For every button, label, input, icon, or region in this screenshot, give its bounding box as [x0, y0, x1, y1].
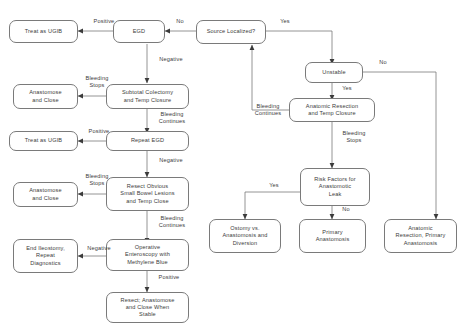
flowchart-canvas: Treat as UGIB EGD Source Localized? Unst…: [0, 0, 461, 330]
node-risk-factors-anastomotic-leak[interactable]: Risk Factors for Anastomotic Leak: [300, 168, 370, 206]
flowchart-connectors: [0, 0, 461, 330]
edge-label-yes-3: Yes: [262, 182, 286, 189]
edge-label-no-2: No: [372, 59, 394, 66]
edge-label-negative-2: Negative: [150, 157, 192, 164]
edge-label-bleeding-stops-3: Bleeding Stops: [79, 173, 115, 187]
edge-label-yes-2: Yes: [335, 85, 359, 92]
node-anatomic-resection-primary-anastomosis[interactable]: Anatomic Resection, Primary Anastomosis: [384, 219, 457, 253]
edge-label-negative-1: Negative: [150, 56, 192, 63]
node-operative-enteroscopy[interactable]: Operative Enteroscopy with Methylene Blu…: [106, 239, 189, 271]
node-resect-obvious-small-bowel[interactable]: Resect Obvious Small Bowel Lesions and T…: [106, 177, 189, 211]
edge-label-bleeding-continues-3: Bleeding Continues: [150, 215, 194, 229]
edge-label-no-3: No: [335, 206, 357, 213]
node-end-ileostomy-repeat-diagnostics[interactable]: End Ileostomy, Repeat Diagnostics: [13, 239, 78, 273]
edge-label-negative-3: Negative: [80, 245, 118, 252]
edge-label-yes-1: Yes: [272, 18, 298, 25]
node-repeat-egd[interactable]: Repeat EGD: [106, 131, 189, 151]
node-anatomic-resection-temp-closure[interactable]: Anatomic Resection and Temp Closure: [289, 98, 375, 122]
edge-label-bleeding-continues-2: Bleeding Continues: [246, 103, 290, 117]
node-unstable[interactable]: Unstable: [305, 62, 363, 83]
edge-label-bleeding-continues-1: Bleeding Continues: [150, 111, 194, 125]
node-treat-as-ugib-2[interactable]: Treat as UGIB: [9, 131, 78, 151]
edge-label-positive-2: Positive: [80, 128, 118, 135]
node-source-localized[interactable]: Source Localized?: [196, 20, 266, 44]
node-anastomose-and-close-2[interactable]: Anastomose and Close: [13, 182, 78, 207]
edge-label-bleeding-stops-1: Bleeding Stops: [79, 75, 115, 89]
edge-label-positive-1: Positive: [84, 18, 124, 25]
edge-label-no-1: No: [168, 18, 192, 25]
edge-anatomic-to-source: [252, 45, 289, 110]
edge-label-positive-3: Positive: [150, 274, 188, 281]
edge-risk-to-ostomy: [245, 192, 300, 219]
node-ostomy-vs-anastomosis-diversion[interactable]: Ostomy vs. Anastomosis and Diversion: [209, 219, 281, 253]
node-primary-anastomosis[interactable]: Primary Anastomosis: [299, 219, 366, 253]
node-anastomose-and-close-1[interactable]: Anastomose and Close: [13, 84, 78, 109]
node-treat-as-ugib-1[interactable]: Treat as UGIB: [9, 20, 78, 43]
edge-label-bleeding-stops-2: Bleeding Stops: [335, 130, 373, 144]
edge-source-to-unstable: [266, 31, 332, 64]
node-subtotal-colectomy[interactable]: Subtotal Colectomy and Temp Closure: [106, 84, 189, 109]
node-resect-anastomose-close-when-stable[interactable]: Resect; Anastomose and Close When Stable: [106, 292, 189, 323]
edge-unstable-no: [363, 72, 436, 219]
